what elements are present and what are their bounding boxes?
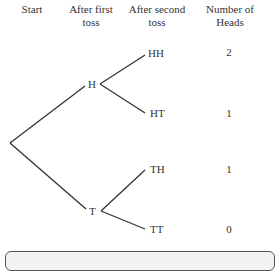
node-ht: HT xyxy=(150,107,165,119)
heads-count-ht: 1 xyxy=(223,107,235,119)
heads-count-tt: 0 xyxy=(223,223,235,235)
node-hh: HH xyxy=(148,47,164,59)
node-t: T xyxy=(89,205,96,217)
caption-box xyxy=(5,251,275,271)
node-th: TH xyxy=(150,163,165,175)
heads-count-hh: 2 xyxy=(223,46,235,58)
node-h: H xyxy=(88,78,96,90)
node-tt: TT xyxy=(150,223,163,235)
heads-count-th: 1 xyxy=(223,163,235,175)
